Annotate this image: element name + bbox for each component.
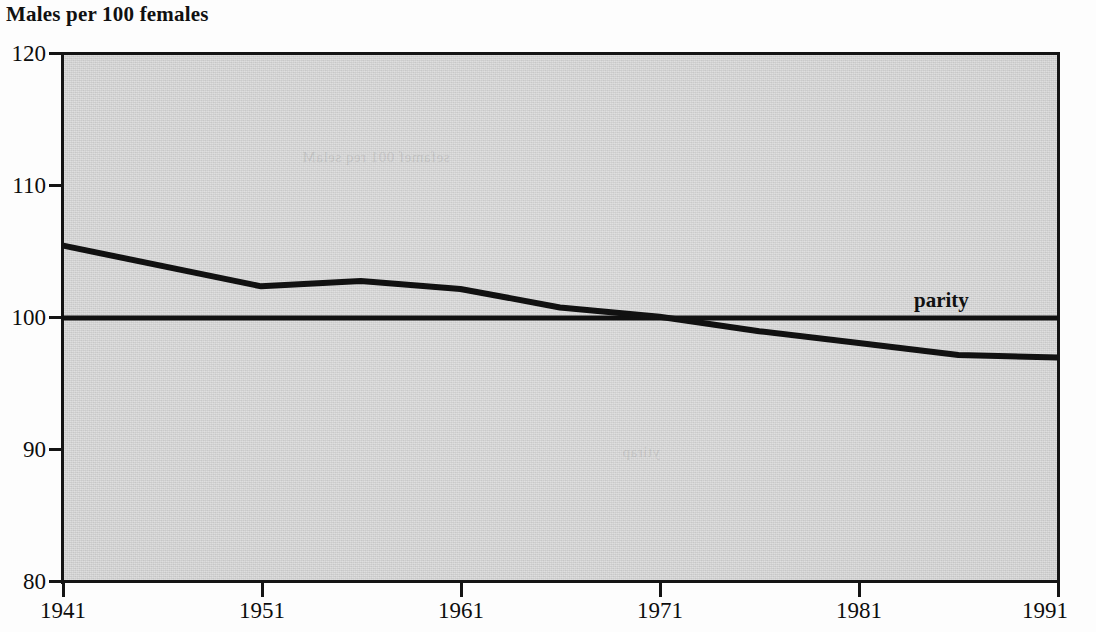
chart-title: Males per 100 females xyxy=(6,2,209,27)
x-tick-label-1961: 1961 xyxy=(406,598,516,624)
x-tick-1941 xyxy=(62,583,65,597)
y-tick-120 xyxy=(49,52,62,55)
y-tick-90 xyxy=(49,448,62,451)
x-tick-label-1971: 1971 xyxy=(605,598,715,624)
x-tick-label-1981: 1981 xyxy=(804,598,914,624)
chart-figure: Males per 100 females sefamef 001 req se… xyxy=(0,0,1096,632)
x-tick-1951 xyxy=(261,583,264,597)
x-tick-label-1941: 1941 xyxy=(8,598,118,624)
y-tick-label-120: 120 xyxy=(0,41,46,67)
x-tick-1981 xyxy=(858,583,861,597)
y-tick-label-80: 80 xyxy=(0,569,46,595)
y-tick-label-100: 100 xyxy=(0,305,46,331)
x-tick-label-1951: 1951 xyxy=(207,598,317,624)
x-tick-1971 xyxy=(659,583,662,597)
y-tick-110 xyxy=(49,184,62,187)
y-tick-80 xyxy=(49,580,62,583)
y-tick-label-90: 90 xyxy=(0,437,46,463)
x-tick-1991 xyxy=(1057,583,1060,597)
parity-annotation-label: parity xyxy=(914,288,969,313)
x-tick-label-1991: 1991 xyxy=(990,598,1096,624)
series-layer xyxy=(62,54,1058,582)
y-tick-label-110: 110 xyxy=(0,173,46,199)
x-tick-1961 xyxy=(460,583,463,597)
sex-ratio-line xyxy=(62,245,1058,357)
y-tick-100 xyxy=(49,316,62,319)
